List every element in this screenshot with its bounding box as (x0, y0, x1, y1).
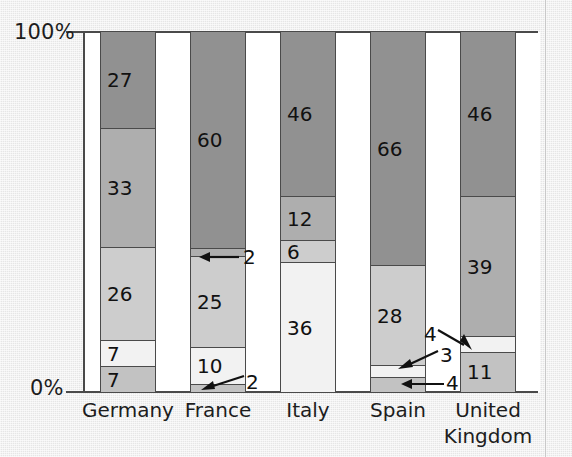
bar-segment: 33 (101, 129, 155, 247)
segment-value-label: 12 (281, 209, 312, 229)
segment-value-label: 60 (191, 130, 222, 150)
segment-value-label: 46 (461, 104, 492, 124)
callout-value: 4 (446, 371, 459, 395)
bar-segment: 6 (281, 241, 335, 263)
bar-italy: 4612636 (280, 32, 336, 392)
bar-segment: 36 (281, 263, 335, 392)
segment-value-label: 33 (101, 178, 132, 198)
segment-value-label: 11 (461, 362, 492, 382)
callout-value: 4 (424, 322, 437, 346)
segment-value-label: 7 (101, 344, 120, 364)
bar-segment: 26 (101, 248, 155, 342)
segment-value-label: 25 (191, 292, 222, 312)
bar-france: 60225102 (190, 32, 246, 392)
segment-value-label: 27 (101, 70, 132, 90)
bar-segment: 7 (101, 341, 155, 367)
category-label-united-kingdom-line2: Kingdom (418, 424, 558, 450)
callout-value: 2 (243, 245, 256, 269)
segment-value-label: 66 (371, 139, 402, 159)
segment-value-label: 7 (101, 370, 120, 390)
segment-value-label: 39 (461, 257, 492, 277)
segment-value-label: 6 (281, 242, 300, 262)
callout-france-top: 2 (243, 245, 256, 269)
bar-segment: 39 (461, 197, 515, 337)
bar-spain: 662834 (370, 32, 426, 392)
callout-spain-lower: 4 (446, 371, 459, 395)
callout-france-bottom: 2 (246, 370, 259, 394)
bar-germany: 27332677 (100, 32, 156, 392)
bar-segment: 11 (461, 353, 515, 392)
bar-segment: 27 (101, 32, 155, 129)
bar-segment: 7 (101, 367, 155, 392)
y-axis-label-100: 100% (14, 20, 75, 44)
bar-segment: 66 (371, 32, 425, 266)
bar-segment: 46 (461, 32, 515, 197)
y-axis-label-0: 0% (30, 376, 64, 400)
callout-value: 2 (246, 370, 259, 394)
bar-segment: 46 (281, 32, 335, 197)
segment-value-label: 36 (281, 318, 312, 338)
stacked-bar-chart: 100% 0% 27332677602251024612636662834463… (0, 0, 572, 457)
category-label-united-kingdom-line1: United (418, 398, 558, 424)
bar-segment: 60 (191, 32, 245, 249)
callout-uk: 4 (424, 322, 437, 346)
segment-value-label: 46 (281, 104, 312, 124)
bar-segment: 25 (191, 257, 245, 348)
segment-value-label: 26 (101, 284, 132, 304)
segment-value-label: 28 (371, 306, 402, 326)
bar-segment: 12 (281, 197, 335, 241)
